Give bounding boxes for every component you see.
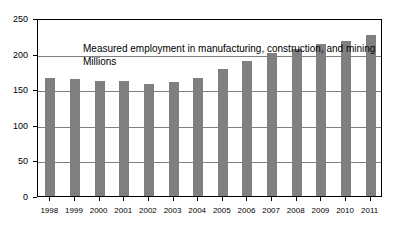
x-tick-label: 2001 [114,207,132,215]
x-axis: 1998199920002001200220032004200520062007… [37,201,382,221]
chart-subtitle: Millions [83,55,397,68]
x-tick-label: 2003 [164,207,182,215]
x-tick-label: 2002 [139,207,157,215]
bar-2003 [169,82,179,196]
x-tick-mark [320,197,321,201]
x-tick-label: 2011 [361,207,378,215]
y-tick-label: 250 [13,15,28,24]
employment-bar-chart: 050100150200250 Measured employment in m… [0,0,397,232]
y-tick-label: 50 [18,157,28,166]
x-tick-label: 2009 [311,207,329,215]
x-tick-mark [99,197,100,201]
x-tick-mark [296,197,297,201]
x-tick-mark [370,197,371,201]
x-tick-mark [197,197,198,201]
bar-2000 [95,81,105,196]
x-tick-label: 2008 [287,207,305,215]
x-tick-label: 2010 [336,207,354,215]
x-tick-mark [123,197,124,201]
x-tick-mark [148,197,149,201]
x-tick-label: 2007 [262,207,280,215]
x-tick-label: 1999 [65,207,83,215]
bar-2007 [267,53,277,196]
x-tick-mark [271,197,272,201]
x-tick-mark [49,197,50,201]
bar-2001 [119,81,129,196]
x-tick-label: 2004 [188,207,206,215]
x-tick-mark [74,197,75,201]
x-tick-label: 2005 [213,207,231,215]
bar-1998 [45,78,55,196]
y-tick-label: 200 [13,51,28,60]
page-title: Measured employment in manufacturing, co… [83,42,397,55]
y-axis: 050100150200250 [0,0,33,232]
chart-title-block: Measured employment in manufacturing, co… [83,42,397,68]
x-tick-mark [222,197,223,201]
x-tick-mark [246,197,247,201]
bar-2005 [218,69,228,196]
x-tick-label: 2006 [238,207,256,215]
x-tick-label: 1998 [40,207,58,215]
bar-2008 [292,49,302,196]
plot-area: Measured employment in manufacturing, co… [37,19,382,197]
y-tick-mark [33,197,37,198]
bar-2002 [144,84,154,196]
bar-1999 [70,79,80,196]
y-tick-label: 150 [13,86,28,95]
y-tick-label: 0 [23,193,28,202]
y-tick-label: 100 [13,122,28,131]
x-tick-mark [173,197,174,201]
bar-2004 [193,78,203,196]
bar-2006 [242,61,252,196]
x-tick-mark [345,197,346,201]
x-tick-label: 2000 [90,207,108,215]
